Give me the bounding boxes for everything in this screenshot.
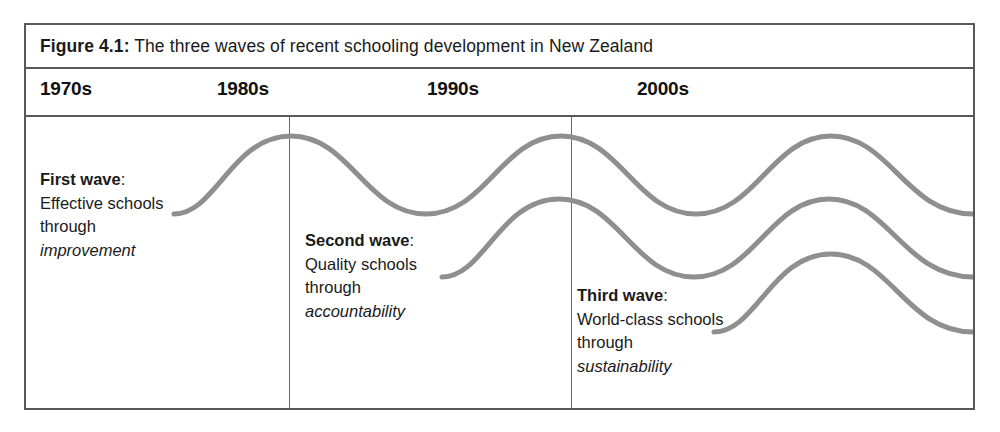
figure-container: Figure 4.1: The three waves of recent sc…	[24, 23, 975, 410]
wave-line4-first: improvement	[40, 239, 164, 263]
wave-heading-first-line: First wave:	[40, 168, 164, 192]
wave-heading-second-line: Second wave:	[305, 229, 417, 253]
wave-line3-second: through	[305, 276, 417, 300]
wave-heading-third: Third wave	[577, 286, 663, 304]
wave-line2-second: Quality schools	[305, 253, 417, 277]
wave-line2-first: Effective schools	[40, 192, 164, 216]
figure-caption-text: The three waves of recent schooling deve…	[134, 36, 653, 56]
decade-label-1980s: 1980s	[217, 78, 269, 100]
decade-header-row: 1970s 1980s 1990s 2000s	[26, 69, 973, 117]
wave-colon-third: :	[663, 286, 668, 304]
column-divider-1990s-2000s	[571, 117, 572, 408]
wave-line3-first: through	[40, 215, 164, 239]
figure-number-label: Figure 4.1:	[40, 36, 130, 56]
wave-text-block-first: First wave: Effective schools through im…	[40, 168, 164, 262]
decade-label-2000s: 2000s	[637, 78, 689, 100]
wave-line4-third: sustainability	[577, 355, 723, 379]
wave-heading-third-line: Third wave:	[577, 284, 723, 308]
wave-heading-second: Second wave	[305, 231, 410, 249]
wave-heading-first: First wave	[40, 170, 121, 188]
wave-curve-second	[442, 199, 973, 277]
decade-label-1990s: 1990s	[427, 78, 479, 100]
wave-curve-third	[714, 254, 973, 332]
wave-line2-third: World-class schools	[577, 308, 723, 332]
wave-colon-first: :	[121, 170, 126, 188]
figure-caption-row: Figure 4.1: The three waves of recent sc…	[26, 25, 973, 69]
wave-text-block-third: Third wave: World-class schools through …	[577, 284, 723, 378]
wave-diagram-area: First wave: Effective schools through im…	[26, 117, 973, 408]
column-divider-1980s-1990s	[289, 117, 290, 408]
figure-caption: Figure 4.1: The three waves of recent sc…	[26, 36, 653, 57]
wave-colon-second: :	[410, 231, 415, 249]
decade-label-1970s: 1970s	[40, 78, 92, 100]
wave-curve-first	[174, 136, 973, 214]
wave-text-block-second: Second wave: Quality schools through acc…	[305, 229, 417, 323]
wave-line3-third: through	[577, 331, 723, 355]
wave-curves	[26, 117, 973, 408]
wave-line4-second: accountability	[305, 300, 417, 324]
